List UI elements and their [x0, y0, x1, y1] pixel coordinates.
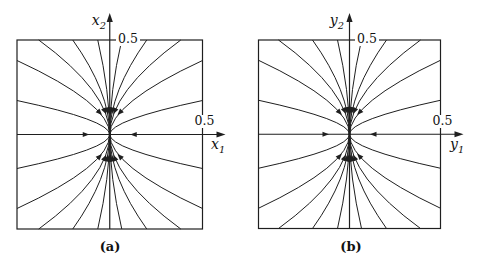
v-axis-tick-a: 0.5	[116, 33, 140, 46]
v-axis-label-b-base: y	[330, 12, 338, 28]
v-axis-label-b: y2	[322, 13, 344, 31]
h-axis-tick-a: 0.5	[190, 115, 219, 128]
h-axis-label-a-sub: 1	[219, 144, 225, 155]
h-axis-label-b-sub: 1	[458, 144, 464, 155]
caption-a: (a)	[92, 240, 128, 253]
v-axis-tick-b: 0.5	[355, 33, 379, 46]
v-axis-label-a-sub: 2	[100, 20, 106, 31]
v-axis-label-b-sub: 2	[338, 20, 344, 31]
caption-b: (b)	[333, 240, 369, 253]
v-axis-label-a: x2	[84, 13, 106, 31]
h-axis-label-b: y1	[450, 137, 464, 155]
h-axis-label-b-base: y	[450, 136, 458, 152]
h-axis-tick-b: 0.5	[428, 115, 457, 128]
h-axis-label-a-base: x	[211, 136, 219, 152]
v-axis-label-a-base: x	[92, 12, 100, 28]
phase-portrait-figure: x2 0.5 0.5 x1 (a) y2 0.5 0.5 y1 (b)	[0, 0, 484, 267]
h-axis-label-a: x1	[211, 137, 225, 155]
